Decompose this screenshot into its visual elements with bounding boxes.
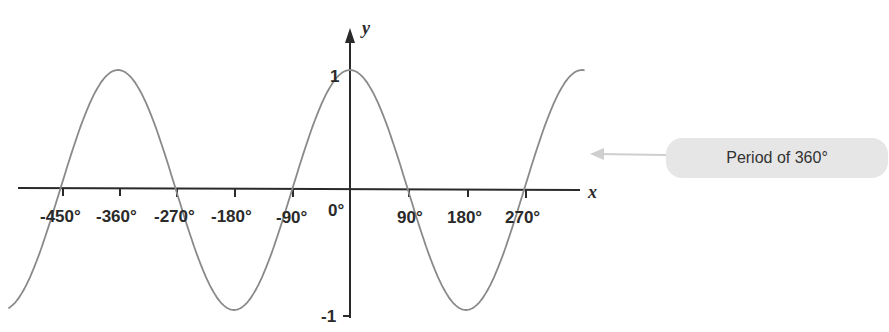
x-tick-label: -180° [211, 207, 252, 226]
x-tick-label: -270° [154, 207, 195, 226]
x-tick-label: -360° [96, 207, 137, 226]
x-tick-label: -450° [40, 207, 81, 226]
period-callout: Period of 360° [666, 138, 888, 178]
y-tick-label-min: -1 [321, 307, 336, 326]
x-tick-label: 270° [505, 208, 540, 227]
callout-arrow-line [598, 154, 666, 155]
y-axis-label: y [360, 18, 371, 38]
x-tick-label: -90° [276, 208, 308, 227]
y-axis-arrow-icon [345, 28, 355, 43]
callout-arrow-icon [590, 148, 604, 160]
x-tick-label: 180° [447, 208, 482, 227]
x-axis-label: x [587, 182, 597, 202]
x-tick-label: 0° [328, 201, 344, 220]
y-tick-label-max: 1 [330, 67, 339, 86]
x-tick-label: 90° [397, 208, 423, 227]
x-axis [18, 188, 580, 190]
